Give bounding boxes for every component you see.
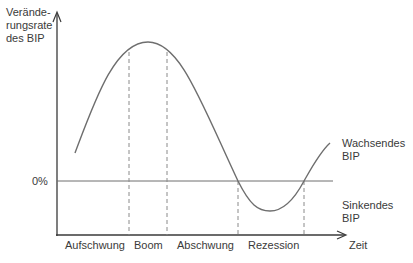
phase-label-boom: Boom	[134, 239, 163, 252]
phase-label-aufschwung: Aufschwung	[65, 239, 125, 252]
label-line: Sinkendes	[342, 199, 393, 212]
label-line: BIP	[342, 150, 405, 163]
phase-label-abschwung: Abschwung	[177, 239, 234, 252]
shrinking-gdp-label: Sinkendes BIP	[342, 199, 393, 225]
y-label-line: rungsrate	[6, 19, 52, 32]
phase-boundaries	[129, 52, 304, 235]
y-label-line: Verände-	[6, 6, 52, 19]
x-axis-label: Zeit	[349, 239, 367, 252]
gdp-curve	[75, 42, 330, 211]
y-axis-label: Verände- rungsrate des BIP	[6, 6, 52, 45]
label-line: BIP	[342, 212, 393, 225]
y-label-line: des BIP	[6, 32, 52, 45]
growing-gdp-label: Wachsendes BIP	[342, 137, 405, 163]
label-line: Wachsendes	[342, 137, 405, 150]
zero-label: 0%	[32, 175, 48, 188]
phase-label-rezession: Rezession	[248, 239, 299, 252]
